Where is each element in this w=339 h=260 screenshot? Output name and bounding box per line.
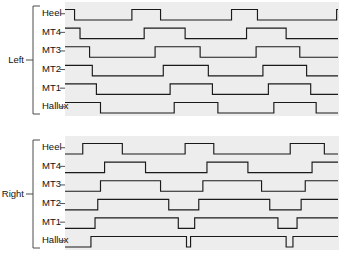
- group-label-left: Left: [8, 54, 24, 65]
- row-label-mt2: MT2: [42, 197, 61, 208]
- row-label-mt4: MT4: [42, 160, 61, 171]
- panel-background-left: [65, 2, 339, 116]
- row-label-mt3: MT3: [42, 44, 61, 55]
- row-label-mt1: MT1: [42, 216, 61, 227]
- row-label-hallux: Hallux: [42, 100, 69, 111]
- group-bracket-right: [26, 140, 40, 248]
- row-label-group-right: HeelMT4MT3MT2MT1Hallux: [42, 141, 69, 245]
- row-label-group-left: HeelMT4MT3MT2MT1Hallux: [42, 7, 69, 111]
- timing-diagram-figure: Left Right HeelMT4MT3MT2MT1Hallux HeelMT…: [0, 0, 339, 260]
- row-label-hallux: Hallux: [42, 234, 69, 245]
- row-label-heel: Heel: [42, 141, 62, 152]
- row-label-mt2: MT2: [42, 63, 61, 74]
- row-label-mt1: MT1: [42, 82, 61, 93]
- row-label-mt3: MT3: [42, 178, 61, 189]
- row-label-mt4: MT4: [42, 26, 61, 37]
- panel-background-right: [65, 136, 339, 250]
- row-label-heel: Heel: [42, 7, 62, 18]
- group-bracket-left: [26, 6, 40, 114]
- timing-diagram-svg: Left Right HeelMT4MT3MT2MT1Hallux HeelMT…: [0, 0, 339, 260]
- group-label-right: Right: [2, 188, 25, 199]
